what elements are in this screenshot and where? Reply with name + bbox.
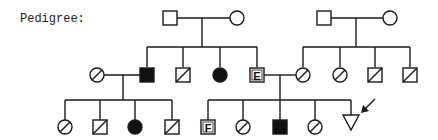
gen1-male-2: [317, 11, 331, 25]
gen3-male-deceased-1: [93, 120, 107, 134]
proband-arrow-icon: [361, 99, 375, 113]
gen2-female-deceased-spouse: [90, 68, 104, 82]
gen1-female-2: [383, 11, 397, 25]
gen2-male-deceased: [176, 68, 190, 82]
gen1-female-1: [230, 11, 244, 25]
gen3-male-deceased-2: [165, 120, 179, 134]
gen3-female-deceased-2: [236, 120, 250, 134]
gen3-male-f: F: [201, 120, 215, 134]
gen2-female-deceased-1: [296, 68, 310, 82]
pedigree-chart: E F: [0, 0, 438, 140]
gen3-male-affected: [273, 120, 287, 134]
label-f: F: [205, 122, 212, 134]
gen3-female-deceased-3: [308, 120, 322, 134]
gen2-female-affected: [213, 68, 227, 82]
gen3-female-affected: [128, 120, 142, 134]
gen2-male-deceased-3: [403, 68, 417, 82]
label-e: E: [253, 70, 260, 82]
gen1-male-1: [163, 11, 177, 25]
gen3-proband-triangle: [343, 115, 359, 130]
gen2-male-e: E: [250, 68, 264, 82]
gen2-female-deceased-2: [333, 68, 347, 82]
gen2-male-deceased-2: [368, 68, 382, 82]
gen3-female-deceased-1: [58, 120, 72, 134]
gen2-male-affected: [140, 68, 154, 82]
